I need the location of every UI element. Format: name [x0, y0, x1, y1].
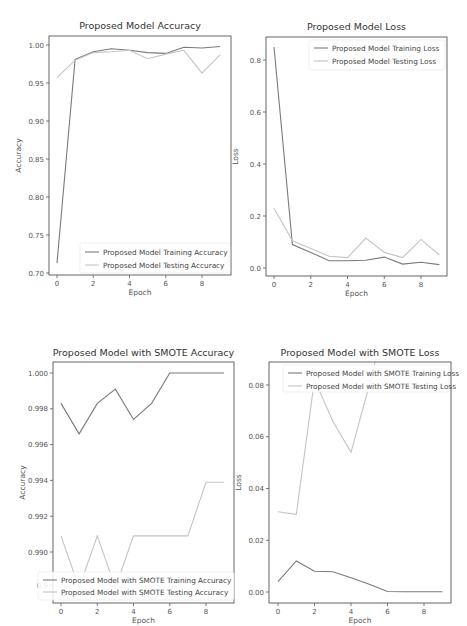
- x-tick-label: 4: [127, 280, 132, 288]
- training-series-line: [278, 561, 442, 592]
- x-tick-label: 0: [55, 280, 59, 288]
- x-tick-label: 6: [385, 608, 390, 616]
- y-tick-label: 0.994: [28, 477, 49, 485]
- plot-area: [57, 47, 220, 264]
- x-tick-label: 4: [131, 608, 136, 616]
- x-tick-label: 2: [91, 280, 95, 288]
- legend-label: Proposed Model Training Accuracy: [103, 248, 228, 257]
- y-tick-label: 0.08: [248, 382, 264, 390]
- chart-panel-4: Proposed Model with SMOTE Loss02468Epoch…: [234, 342, 459, 625]
- y-tick-label: 0.992: [28, 513, 48, 521]
- legend-label: Proposed Model Testing Loss: [332, 57, 436, 66]
- y-tick-label: 0.4: [250, 161, 262, 169]
- y-tick-label: 0.04: [248, 485, 264, 493]
- x-tick-label: 0: [272, 281, 276, 289]
- x-tick-label: 6: [382, 281, 387, 289]
- y-tick-label: 1.00: [28, 42, 44, 50]
- x-tick-label: 6: [164, 280, 169, 288]
- y-tick-label: 0.02: [248, 537, 264, 545]
- legend-label: Proposed Model with SMOTE Training Accur…: [61, 576, 232, 585]
- y-tick-label: 0.70: [28, 270, 44, 278]
- axes-frame: [269, 362, 451, 603]
- legend-label: Proposed Model Testing Accuracy: [103, 261, 225, 270]
- testing-series-line: [274, 208, 439, 257]
- y-tick-label: 1.000: [28, 370, 48, 378]
- legend-label: Proposed Model with SMOTE Testing Loss: [306, 382, 456, 391]
- legend: Proposed Model Training AccuracyProposed…: [80, 243, 230, 273]
- x-axis-label: Epoch: [345, 289, 368, 298]
- y-tick-label: 0.90: [28, 118, 44, 126]
- y-tick-label: 0.6: [250, 109, 262, 117]
- y-tick-label: 0.00: [248, 589, 264, 597]
- training-series-line: [57, 47, 220, 264]
- y-axis-label: Loss: [231, 148, 240, 165]
- y-tick-label: 0.0: [250, 265, 261, 273]
- plot-area: [61, 373, 224, 588]
- x-tick-label: 8: [200, 280, 204, 288]
- y-tick-label: 0.75: [28, 232, 44, 240]
- legend: Proposed Model Training LossProposed Mod…: [309, 40, 445, 70]
- legend: Proposed Model with SMOTE Training LossP…: [283, 365, 459, 392]
- y-tick-label: 0.990: [28, 549, 48, 557]
- chart-title: Proposed Model Loss: [307, 21, 406, 32]
- y-tick-label: 0.80: [28, 194, 44, 202]
- x-tick-label: 8: [419, 281, 423, 289]
- chart-panel-3: Proposed Model with SMOTE Accuracy02468E…: [18, 347, 235, 625]
- y-axis-label: Accuracy: [18, 465, 27, 500]
- x-tick-label: 2: [309, 281, 313, 289]
- chart-title: Proposed Model with SMOTE Loss: [281, 347, 440, 358]
- training-series-line: [61, 373, 224, 434]
- figure-canvas: Proposed Model Accuracy02468Epoch0.700.7…: [0, 0, 467, 626]
- y-axis-label: Loss: [234, 474, 243, 491]
- legend-label: Proposed Model with SMOTE Testing Accura…: [61, 588, 229, 597]
- y-tick-label: 0.996: [28, 441, 49, 449]
- x-tick-label: 0: [276, 608, 280, 616]
- legend: Proposed Model with SMOTE Training Accur…: [38, 572, 234, 600]
- x-tick-label: 2: [312, 608, 316, 616]
- chart-title: Proposed Model with SMOTE Accuracy: [53, 347, 235, 358]
- legend-label: Proposed Model with SMOTE Training Loss: [306, 369, 459, 378]
- y-tick-label: 0.8: [250, 57, 261, 65]
- x-tick-label: 8: [422, 608, 426, 616]
- plot-area: [274, 47, 439, 265]
- chart-panel-1: Proposed Model Accuracy02468Epoch0.700.7…: [14, 20, 231, 297]
- y-axis-label: Accuracy: [14, 138, 23, 173]
- x-tick-label: 2: [95, 608, 99, 616]
- testing-series-line: [57, 50, 220, 77]
- y-tick-label: 0.2: [250, 213, 261, 221]
- chart-panel-2: Proposed Model Loss02468Epoch0.00.20.40.…: [231, 21, 447, 298]
- x-tick-label: 0: [59, 608, 63, 616]
- legend-label: Proposed Model Training Loss: [332, 44, 439, 53]
- x-axis-label: Epoch: [129, 288, 152, 297]
- y-tick-label: 0.06: [248, 433, 264, 441]
- x-tick-label: 6: [168, 608, 173, 616]
- y-tick-label: 0.95: [28, 80, 44, 88]
- y-tick-label: 0.85: [28, 156, 44, 164]
- training-series-line: [274, 47, 439, 265]
- x-tick-label: 4: [345, 281, 350, 289]
- x-tick-label: 8: [204, 608, 208, 616]
- x-axis-label: Epoch: [132, 616, 155, 625]
- y-tick-label: 0.998: [28, 405, 48, 413]
- x-axis-label: Epoch: [349, 616, 372, 625]
- x-tick-label: 4: [349, 608, 354, 616]
- chart-title: Proposed Model Accuracy: [79, 20, 201, 31]
